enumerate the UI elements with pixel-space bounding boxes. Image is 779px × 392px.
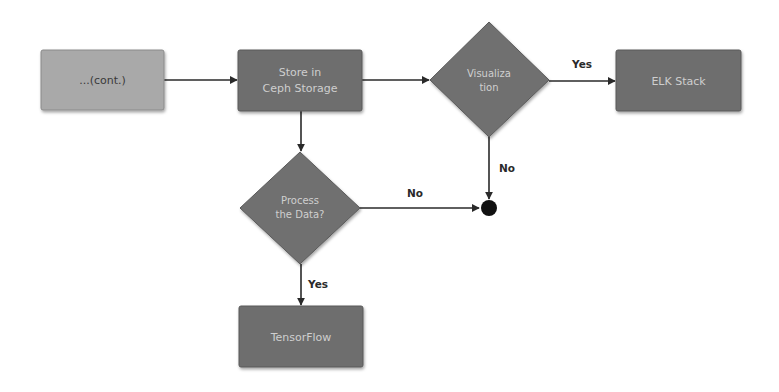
node-elk-stack: ELK Stack [616,50,741,111]
node-tensorflow: TensorFlow [239,306,363,367]
edge-label-visualization-no: No [499,162,515,174]
node-process-label-line1: Process [281,195,319,206]
node-cont-label: ...(cont.) [79,74,126,87]
edge-label-visualization-yes: Yes [571,58,592,70]
node-process-decision: Process the Data? [240,152,360,264]
node-cont: ...(cont.) [41,50,164,110]
edge-label-process-yes: Yes [307,278,328,290]
node-ceph-label-line1: Store in [279,66,322,79]
flowchart: ...(cont.) Store in Ceph Storage Visuali… [0,0,779,392]
edge-label-process-no: No [407,187,423,199]
edges [164,80,615,305]
node-ceph-label-line2: Ceph Storage [263,82,338,95]
node-tensorflow-label: TensorFlow [270,331,332,344]
junction-node [481,200,497,216]
node-process-label-line2: the Data? [276,209,325,220]
node-visualization-label-line2: tion [479,82,498,93]
node-ceph-storage: Store in Ceph Storage [238,50,362,111]
node-visualization-decision: Visualiza tion [430,22,549,137]
node-elk-label: ELK Stack [651,75,706,88]
node-visualization-label-line1: Visualiza [467,68,511,79]
